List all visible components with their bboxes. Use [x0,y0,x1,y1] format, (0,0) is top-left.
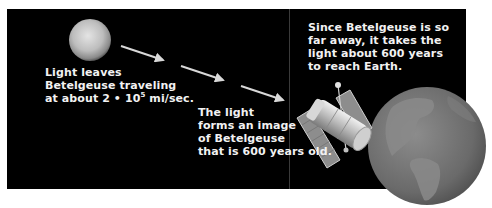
caption-line: forms an image [198,119,332,132]
caption-line-speed: at about 2 • 105 mi/sec. [45,92,194,105]
caption-light-leaves: Light leaves Betelgeuse traveling at abo… [45,66,194,105]
caption-line: of Betelgeuse [198,132,332,145]
caption-line: light about 600 years [308,47,449,60]
caption-line: far away, it takes the [308,34,449,47]
caption-line: Betelgeuse traveling [45,79,194,92]
caption-line: Since Betelgeuse is so [308,21,449,34]
caption-line: The light [198,106,332,119]
caption-image-age: The light forms an image of Betelgeuse t… [198,106,332,158]
caption-line: Light leaves [45,66,194,79]
arrow-1 [121,46,163,60]
caption-distance: Since Betelgeuse is so far away, it take… [308,21,449,73]
earth-globe-icon [368,87,486,205]
caption-line: that is 600 years old. [198,145,332,158]
caption-line: to reach Earth. [308,60,449,73]
star-sphere-icon [69,19,111,61]
speed-suffix: mi/sec. [145,92,194,105]
speed-prefix: at about 2 • 10 [45,92,140,105]
arrow-3 [241,86,283,100]
